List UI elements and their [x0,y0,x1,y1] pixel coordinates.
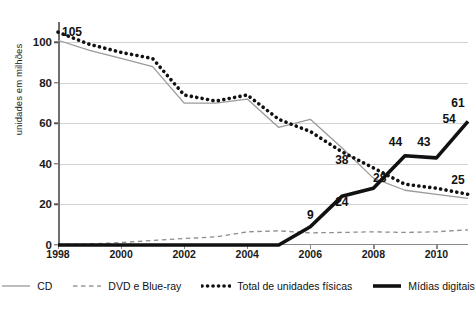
series-line [58,230,468,245]
data-label: 38 [335,153,348,167]
x-tick-label: 2002 [172,248,195,260]
series-container [58,22,468,245]
chart-legend: CDDVD e Blue-rayTotal de unidades física… [0,280,476,292]
x-tick-mark [373,245,374,249]
data-label: 61 [451,96,464,110]
legend-item[interactable]: CD [1,280,52,292]
y-tick-label: 100 [33,36,52,48]
legend-item[interactable]: Total de unidades físicas [201,280,352,292]
x-tick-mark [310,245,311,249]
thick-solid-swatch [372,280,402,292]
legend-item[interactable]: Mídias digitais [372,280,475,292]
dashed-swatch [72,280,102,292]
legend-item-label: DVD e Blue-ray [108,280,181,292]
plot-area: 020406080100 199820002002200420062008201… [58,22,468,245]
series-line [58,40,468,198]
y-tick-label: 40 [39,158,52,170]
legend-item-label: Mídias digitais [408,280,475,292]
y-tick-label: 20 [39,198,52,210]
legend-item[interactable]: DVD e Blue-ray [72,280,181,292]
data-label: 44 [389,135,402,149]
data-label: 105 [62,25,82,39]
x-tick-label: 2006 [299,248,322,260]
thin-solid-swatch [1,280,31,292]
x-tick-label: 1998 [46,248,69,260]
series-line [58,121,468,245]
data-label: 28 [373,171,386,185]
x-tick-label: 2010 [425,248,448,260]
line-chart: unidades em milhões 020406080100 1998200… [0,0,476,310]
data-label: 9 [307,208,314,222]
data-label: 54 [442,112,455,126]
legend-item-label: CD [37,280,52,292]
data-label: 25 [451,173,464,187]
legend-item-label: Total de unidades físicas [237,280,352,292]
data-label: 43 [417,135,430,149]
y-tick-label: 60 [39,117,52,129]
x-tick-mark [436,245,437,249]
x-tick-label: 2008 [362,248,385,260]
x-tick-label: 2004 [236,248,259,260]
dotted-swatch [201,280,231,292]
x-tick-label: 2000 [109,248,132,260]
y-tick-label: 80 [39,77,52,89]
y-axis-title: unidades em milhões [13,20,24,160]
data-label: 24 [335,195,348,209]
